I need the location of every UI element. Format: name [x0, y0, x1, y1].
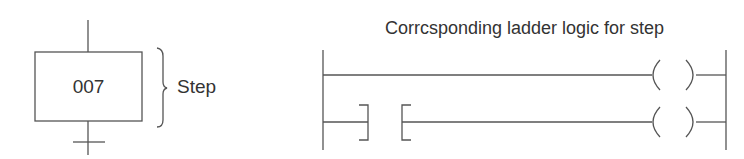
step-brace-icon: [157, 48, 167, 127]
rung-1-coil-icon: [653, 60, 660, 90]
step-number: 007: [35, 76, 142, 98]
step-label: Step: [177, 76, 216, 98]
rung-2-coil-icon-right: [686, 107, 693, 137]
rung-2-coil-icon: [653, 107, 660, 137]
ladder-title: Corrcsponding ladder logic for step: [323, 18, 726, 39]
rung-1-coil-icon-right: [686, 60, 693, 90]
